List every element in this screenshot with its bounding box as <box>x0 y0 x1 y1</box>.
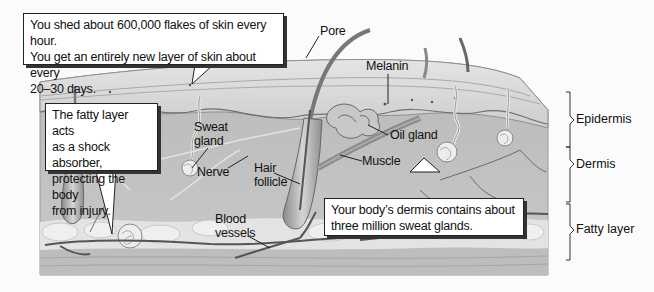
layer-label-dermis: Dermis <box>576 157 616 171</box>
label-line: Hair <box>254 161 287 175</box>
label-nerve: Nerve <box>197 165 229 179</box>
fatty-layer-bracket <box>566 204 574 260</box>
callout-line: protecting the body <box>52 171 151 203</box>
label-oil-gland: Oil gland <box>390 128 438 142</box>
dermis-bracket <box>566 147 574 202</box>
label-line: gland <box>194 134 228 148</box>
label-blood-vessels: Blood vessels <box>215 212 255 240</box>
label-line: Sweat <box>194 120 228 134</box>
callout-line: 20–30 days. <box>30 81 277 97</box>
callout-fatty-layer: The fatty layer acts as a shock absorber… <box>45 103 158 171</box>
label-muscle: Muscle <box>362 154 400 168</box>
layer-brackets <box>566 92 574 260</box>
label-pore: Pore <box>320 24 346 38</box>
label-hair-follicle: Hair follicle <box>254 161 287 189</box>
callout-line: as a shock absorber, <box>52 139 151 171</box>
epidermis-bracket <box>566 92 574 147</box>
label-line: follicle <box>254 175 287 189</box>
label-line: vessels <box>215 226 255 240</box>
label-melanin: Melanin <box>366 59 408 73</box>
callout-line: The fatty layer acts <box>52 107 151 139</box>
label-line: Blood <box>215 212 255 226</box>
callout-line: three million sweat glands. <box>331 218 517 234</box>
callout-line: Your body’s dermis contains about <box>331 202 517 218</box>
callout-skin-shedding: You shed about 600,000 flakes of skin ev… <box>23 13 284 65</box>
callout-line: from injury. <box>52 203 151 219</box>
layer-label-epidermis: Epidermis <box>576 112 632 126</box>
skin-diagram: You shed about 600,000 flakes of skin ev… <box>0 0 654 292</box>
callout-line: You get an entirely new layer of skin ab… <box>30 49 277 81</box>
label-sweat-gland: Sweat gland <box>194 120 228 148</box>
pore-leader <box>306 36 319 58</box>
callout-line: You shed about 600,000 flakes of skin ev… <box>30 17 277 49</box>
layer-label-fatty-layer: Fatty layer <box>576 222 634 236</box>
callout-dermis: Your body’s dermis contains about three … <box>324 198 524 236</box>
